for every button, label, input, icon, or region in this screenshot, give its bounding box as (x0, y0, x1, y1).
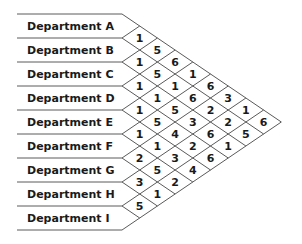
matrix-cell-value: 5 (242, 128, 250, 141)
grid-line-descending (122, 14, 281, 122)
matrix-cell-value: 1 (224, 140, 232, 153)
matrix-cell-value: 3 (224, 92, 232, 105)
matrix-cell-value: 5 (171, 104, 179, 117)
matrix-cell-value: 2 (171, 176, 179, 189)
matrix-cell-value: 5 (154, 116, 162, 129)
matrix-cell-value: 2 (136, 152, 144, 165)
matrix-cell-value: 3 (171, 152, 179, 165)
matrix-cell-value: 3 (189, 116, 197, 129)
matrix-cell-value: 1 (154, 140, 162, 153)
matrix-cell-value: 6 (171, 56, 179, 69)
department-label: Department C (27, 68, 114, 81)
matrix-cell-value: 4 (171, 128, 179, 141)
matrix-cell-value: 2 (207, 104, 215, 117)
matrix-cell-value: 1 (171, 80, 179, 93)
department-label: Department D (27, 92, 115, 105)
department-label: Department E (27, 116, 113, 129)
department-labels: Department ADepartment BDepartment CDepa… (27, 20, 115, 225)
matrix-cell-value: 1 (136, 104, 144, 117)
matrix-cell-value: 6 (207, 80, 215, 93)
department-label: Department G (27, 164, 114, 177)
matrix-cell-value: 4 (189, 164, 197, 177)
department-label: Department H (27, 188, 115, 201)
relationship-matrix-diagram: Department ADepartment BDepartment CDepa… (0, 0, 302, 244)
matrix-cell-value: 5 (136, 200, 144, 213)
matrix-grid (122, 14, 281, 230)
matrix-cell-value: 1 (136, 80, 144, 93)
department-label: Department I (27, 212, 110, 225)
department-label: Department A (27, 20, 114, 33)
matrix-cell-value: 6 (260, 116, 268, 129)
matrix-cell-value: 3 (136, 176, 144, 189)
matrix-cell-value: 5 (154, 68, 162, 81)
department-label: Department F (27, 140, 113, 153)
department-label: Department B (27, 44, 114, 57)
matrix-cell-value: 2 (189, 140, 197, 153)
matrix-cell-value: 2 (224, 116, 232, 129)
matrix-cell-value: 1 (154, 92, 162, 105)
matrix-cell-value: 6 (189, 92, 197, 105)
matrix-cell-value: 5 (154, 44, 162, 57)
matrix-cell-value: 1 (136, 32, 144, 45)
matrix-cell-value: 1 (189, 68, 197, 81)
matrix-cell-value: 1 (136, 56, 144, 69)
matrix-cell-value: 1 (242, 104, 250, 117)
matrix-cell-value: 6 (207, 128, 215, 141)
matrix-cell-value: 5 (154, 164, 162, 177)
matrix-cell-value: 6 (207, 152, 215, 165)
matrix-cell-value: 1 (136, 128, 144, 141)
matrix-cell-value: 1 (154, 188, 162, 201)
grid-line-ascending (122, 122, 281, 230)
matrix-values: 111112355515151615432163246266321156 (136, 32, 268, 213)
